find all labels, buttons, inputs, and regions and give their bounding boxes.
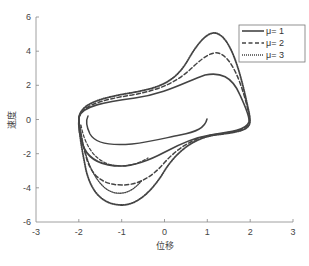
- y-tick-label: -6: [23, 217, 31, 227]
- plot-area: [79, 33, 250, 205]
- x-tick-label: -3: [32, 227, 40, 237]
- series-mu-1: [79, 74, 249, 166]
- y-tick-label: 6: [26, 12, 31, 22]
- series-mu-2-inner: [81, 125, 148, 166]
- x-tick-labels: -3 -2 -1 0 1 2 3: [32, 227, 296, 237]
- x-tick-label: 2: [248, 227, 253, 237]
- legend-label: μ= 2: [266, 38, 284, 48]
- x-tick-label: 3: [290, 227, 295, 237]
- legend-label: μ= 1: [266, 26, 284, 36]
- x-tick-label: 1: [205, 227, 210, 237]
- series-mu-3: [79, 33, 250, 205]
- legend-label: μ= 3: [266, 50, 284, 60]
- x-axis-label: 位移: [156, 240, 174, 251]
- x-tick-label: -1: [118, 227, 126, 237]
- y-tick-label: 4: [26, 46, 31, 56]
- y-tick-label: 0: [26, 115, 31, 125]
- phase-portrait-chart: 6 4 2 0 -2 -4 -6 -3 -2 -1 0 1 2 3 位移 速度: [0, 0, 309, 266]
- series-mu-2: [79, 53, 250, 185]
- y-tick-label: -2: [23, 149, 31, 159]
- y-tick-labels: 6 4 2 0 -2 -4 -6: [23, 12, 31, 227]
- legend: μ= 1 μ= 2 μ= 3: [239, 25, 305, 62]
- y-tick-label: -4: [23, 183, 31, 193]
- x-tick-label: -2: [75, 227, 83, 237]
- y-axis-label: 速度: [6, 111, 17, 129]
- y-tick-label: 2: [26, 80, 31, 90]
- x-tick-label: 0: [162, 227, 167, 237]
- series-mu-3-inner: [80, 125, 142, 193]
